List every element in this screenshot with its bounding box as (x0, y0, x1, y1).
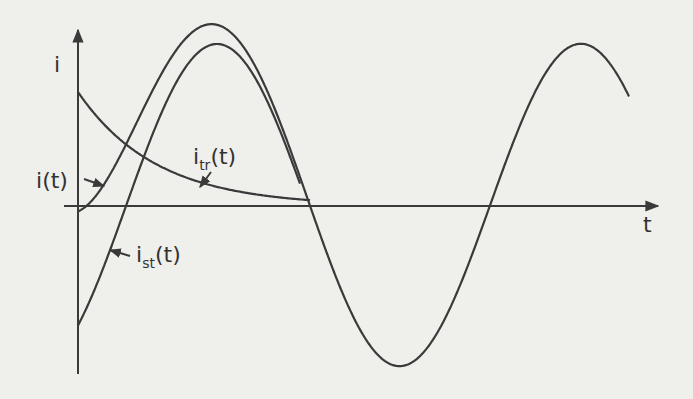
x-axis-label-text: t (643, 212, 652, 237)
steady-state-current-label: ist(t) (136, 244, 181, 266)
y-axis-label: i (54, 54, 60, 76)
transient-current-diagram: i t i(t) itr(t) ist(t) (0, 0, 693, 399)
steady-label-sub: st (142, 255, 155, 271)
transient-current-label: itr(t) (193, 146, 236, 168)
steady-label-arg: (t) (155, 242, 181, 267)
total-current-label: i(t) (36, 170, 68, 192)
transient-label-arg: (t) (210, 144, 236, 169)
x-axis-label: t (643, 214, 652, 236)
steady-state-current-curve (78, 44, 300, 325)
y-axis-label-text: i (54, 52, 60, 77)
total-current-curve (78, 24, 629, 366)
plot-area (0, 0, 693, 399)
total-label-arg: (t) (42, 168, 68, 193)
steady-label-arrow (110, 250, 130, 256)
transient-label-sub: tr (199, 157, 210, 173)
total-label-arrow (84, 179, 104, 186)
